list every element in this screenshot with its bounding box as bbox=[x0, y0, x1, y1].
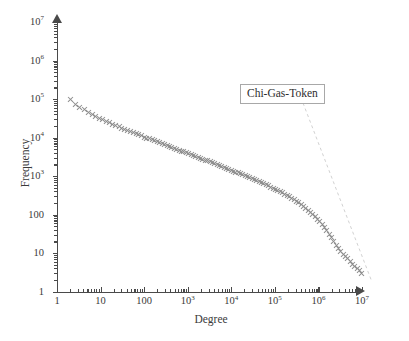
data-point-marker bbox=[72, 101, 79, 108]
data-point-marker bbox=[202, 157, 209, 164]
data-point-marker bbox=[207, 158, 214, 165]
data-point-marker bbox=[333, 242, 340, 249]
data-point-marker bbox=[328, 234, 335, 241]
data-point-marker bbox=[112, 122, 119, 129]
data-point-marker bbox=[185, 150, 192, 157]
data-point-marker bbox=[284, 192, 291, 199]
data-point-marker bbox=[263, 181, 270, 188]
data-point-marker bbox=[253, 177, 260, 184]
x-tick-label: 104 bbox=[224, 296, 238, 307]
data-point-marker bbox=[138, 132, 145, 139]
data-point-marker bbox=[228, 167, 235, 174]
data-point-marker bbox=[272, 186, 279, 193]
data-point-marker bbox=[319, 221, 326, 228]
data-point-marker bbox=[156, 139, 163, 146]
data-point-marker bbox=[260, 180, 267, 187]
data-point-marker bbox=[151, 137, 158, 144]
data-point-marker bbox=[312, 213, 319, 220]
data-point-marker bbox=[159, 140, 166, 147]
data-point-marker bbox=[135, 131, 142, 138]
data-point-marker bbox=[183, 149, 190, 156]
data-point-marker bbox=[214, 161, 221, 168]
data-point-marker bbox=[124, 127, 131, 134]
series-chi-gas-token bbox=[57, 22, 362, 292]
y-tick-label: 103 bbox=[30, 171, 44, 182]
data-point-marker bbox=[358, 270, 365, 277]
data-point-marker bbox=[265, 182, 272, 189]
data-point-marker bbox=[192, 153, 199, 160]
data-point-marker bbox=[342, 253, 349, 260]
data-point-marker bbox=[178, 148, 185, 155]
data-point-marker bbox=[347, 258, 354, 265]
data-point-marker bbox=[340, 251, 347, 258]
data-point-marker bbox=[300, 203, 307, 210]
data-point-marker bbox=[302, 205, 309, 212]
data-point-marker bbox=[291, 196, 298, 203]
x-axis-title: Degree bbox=[194, 313, 227, 325]
data-point-marker bbox=[130, 129, 137, 136]
data-point-marker bbox=[103, 118, 110, 125]
data-point-marker bbox=[99, 116, 106, 123]
data-point-marker bbox=[244, 173, 251, 180]
data-point-marker bbox=[209, 159, 216, 166]
y-tick-label: 107 bbox=[30, 17, 44, 28]
data-point-marker bbox=[337, 248, 344, 255]
x-tick-label: 103 bbox=[181, 296, 195, 307]
data-point-marker bbox=[166, 143, 173, 150]
data-point-marker bbox=[218, 163, 225, 170]
data-point-marker bbox=[232, 169, 239, 176]
data-point-marker bbox=[96, 115, 103, 122]
data-point-marker bbox=[235, 169, 242, 176]
data-point-marker bbox=[258, 179, 265, 186]
data-point-marker bbox=[173, 146, 180, 153]
data-point-marker bbox=[127, 128, 134, 135]
data-point-marker bbox=[277, 188, 284, 195]
data-point-marker bbox=[309, 211, 316, 218]
data-point-marker bbox=[323, 227, 330, 234]
data-point-marker bbox=[76, 104, 83, 111]
data-point-marker bbox=[199, 156, 206, 163]
y-tick-label: 10 bbox=[34, 248, 45, 259]
data-point-marker bbox=[251, 176, 258, 183]
data-point-marker bbox=[267, 184, 274, 191]
data-point-marker bbox=[351, 263, 358, 270]
data-point-marker bbox=[190, 152, 197, 159]
y-tick-label: 1 bbox=[39, 286, 44, 297]
data-point-marker bbox=[216, 162, 223, 169]
annotation-label-chi-gas-token: Chi-Gas-Token bbox=[240, 84, 325, 104]
data-point-marker bbox=[225, 166, 232, 173]
data-point-marker bbox=[118, 125, 125, 132]
x-tick-label: 105 bbox=[268, 296, 282, 307]
data-point-marker bbox=[85, 109, 92, 116]
data-point-marker bbox=[197, 155, 204, 162]
data-point-marker bbox=[249, 175, 256, 182]
data-point-marker bbox=[121, 126, 128, 133]
data-point-marker bbox=[168, 144, 175, 151]
data-point-marker bbox=[164, 142, 171, 149]
data-point-marker bbox=[81, 106, 88, 113]
data-point-marker bbox=[221, 164, 228, 171]
data-point-marker bbox=[242, 172, 249, 179]
data-point-marker bbox=[204, 157, 211, 164]
x-tick-label: 1 bbox=[54, 296, 59, 307]
y-tick-label: 105 bbox=[30, 94, 44, 105]
plot-area bbox=[57, 22, 362, 292]
data-point-marker bbox=[246, 174, 253, 181]
data-point-marker bbox=[133, 130, 140, 137]
data-point-marker bbox=[195, 154, 202, 161]
data-point-marker bbox=[354, 265, 361, 272]
data-point-marker bbox=[188, 151, 195, 158]
x-tick-label: 10 bbox=[95, 296, 106, 307]
data-point-marker bbox=[161, 141, 168, 148]
data-point-marker bbox=[316, 218, 323, 225]
data-point-marker bbox=[237, 170, 244, 177]
data-point-marker bbox=[143, 135, 150, 142]
data-point-marker bbox=[154, 138, 161, 145]
data-point-marker bbox=[89, 111, 96, 118]
data-point-marker bbox=[116, 123, 123, 130]
data-point-marker bbox=[171, 145, 178, 152]
data-point-marker bbox=[223, 165, 230, 172]
degree-distribution-chart: 110100103104105106107 110100103104105106… bbox=[0, 0, 409, 341]
data-point-marker bbox=[321, 224, 328, 231]
data-point-marker bbox=[141, 134, 148, 141]
